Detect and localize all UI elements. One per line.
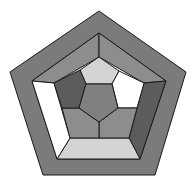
nested-pentagon-diagram (0, 0, 191, 181)
middle-ring-bottom (57, 138, 140, 159)
